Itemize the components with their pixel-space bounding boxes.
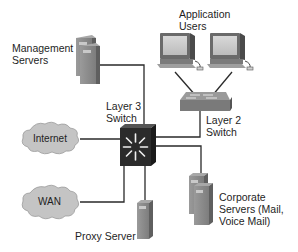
- layer2-switch-label-line2: Switch: [206, 126, 241, 138]
- management-servers-label: Management Servers: [12, 42, 73, 66]
- application-users-label-line1: Application: [179, 8, 230, 20]
- layer3-switch-label-line2: Switch: [106, 112, 141, 124]
- network-diagram: Management Servers Application Users Lay…: [0, 0, 298, 252]
- proxy-server-icon: [137, 200, 153, 239]
- layer2-switch-label-line1: Layer 2: [206, 114, 241, 126]
- application-users-label-line2: Users: [179, 20, 230, 32]
- corporate-servers-label-line1: Corporate: [219, 191, 284, 203]
- layer2-switch-icon: [180, 92, 232, 111]
- layer2-switch-label: Layer 2 Switch: [206, 114, 241, 138]
- link-l3-to-l2: [155, 111, 200, 137]
- management-servers-label-line2: Servers: [12, 54, 73, 66]
- layer3-switch-label-line1: Layer 3: [106, 100, 141, 112]
- wan-label: WAN: [38, 196, 61, 208]
- management-servers-label-line1: Management: [12, 42, 73, 54]
- corporate-servers-label: Corporate Servers (Mail, Voice Mail): [219, 191, 284, 227]
- corporate-servers-icon: [189, 173, 213, 225]
- link-wan-to-l3: [80, 166, 124, 202]
- layer3-switch-icon: [120, 124, 156, 166]
- corporate-servers-label-line2: Servers (Mail,: [219, 203, 284, 215]
- proxy-server-label: Proxy Server: [75, 230, 136, 242]
- management-servers-icon: [76, 35, 100, 84]
- workstation-1-icon: [157, 33, 203, 70]
- link-l3-to-corporate: [155, 146, 201, 176]
- application-users-label: Application Users: [179, 8, 230, 32]
- internet-label: Internet: [33, 133, 67, 145]
- layer3-switch-label: Layer 3 Switch: [106, 100, 141, 124]
- corporate-servers-label-line3: Voice Mail): [219, 215, 284, 227]
- workstation-2-icon: [207, 33, 253, 70]
